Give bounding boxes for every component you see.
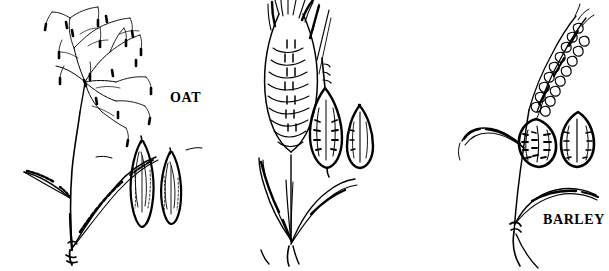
oat-seed-enlargements [0, 0, 203, 271]
wheat-seed-enlargements [406, 0, 609, 271]
cereal-grain-illustration-plate: OAT [0, 0, 609, 271]
panel-wheat: WHEAT [406, 0, 609, 271]
panel-barley: BARLEY [203, 0, 406, 271]
barley-seed-enlargements [203, 0, 406, 271]
panel-oat: OAT [0, 0, 203, 271]
label-oat: OAT [170, 91, 201, 105]
